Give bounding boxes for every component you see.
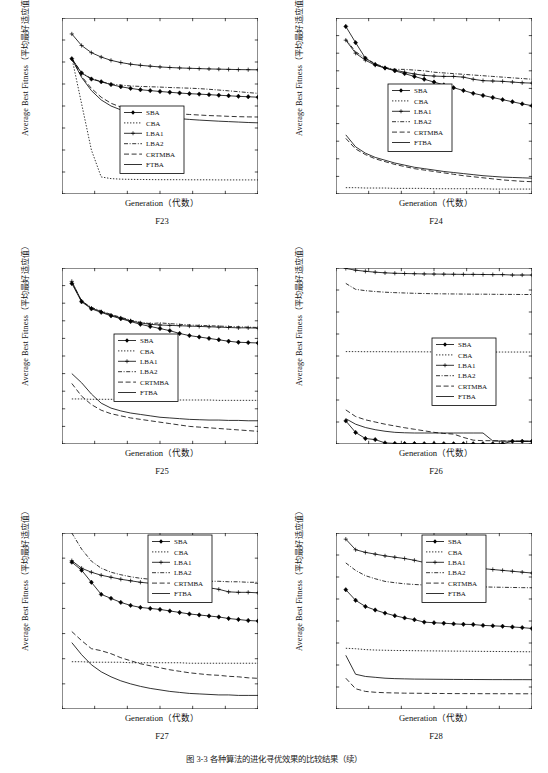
svg-text:CBA: CBA [174, 549, 188, 557]
figure-caption: 图 3-3 各种算法的进化寻优效果的比较结果（续） [0, 752, 548, 764]
plot-area-f25: 0500100015002000250030001420142514301435… [62, 268, 258, 444]
svg-text:LBA1: LBA1 [414, 108, 432, 116]
subplot-caption-f27: F27 [62, 731, 262, 741]
chart-cell-f24: Average Best Fitness（平均最好适应值） 0500100015… [274, 0, 548, 250]
svg-text:LBA2: LBA2 [448, 569, 466, 577]
chart-panel-f27: Average Best Fitness（平均最好适应值） 0500100015… [0, 515, 274, 730]
svg-text:SBA: SBA [414, 87, 428, 95]
chart-cell-f27: Average Best Fitness（平均最好适应值） 0500100015… [0, 515, 274, 755]
svg-text:FTBA: FTBA [146, 161, 164, 169]
chart-cell-f28: Average Best Fitness（平均最好适应值） 0500100015… [274, 515, 548, 755]
figure-page: Average Best Fitness（平均最好适应值） 0500100015… [0, 0, 548, 773]
svg-text:LBA1: LBA1 [448, 559, 466, 567]
y-axis-label-f26: Average Best Fitness（平均最好适应值） [292, 234, 304, 394]
x-axis-label-f27: Generation（代数） [62, 711, 262, 723]
plot-area-f23: 0500100015002000250030005800600062006400… [62, 18, 258, 194]
svg-text:LBA1: LBA1 [140, 358, 158, 366]
svg-text:CBA: CBA [140, 348, 154, 356]
svg-text:FTBA: FTBA [414, 139, 432, 147]
subplot-caption-f28: F28 [336, 731, 536, 741]
chart-panel-f26: Average Best Fitness（平均最好适应值） 0500100015… [274, 250, 548, 465]
svg-text:CBA: CBA [414, 98, 428, 106]
plot-svg-f26: 0500100015002000250030001400142014401460… [336, 268, 532, 444]
plot-area-f24: 0500100015002000250030001290129513001305… [336, 18, 532, 194]
svg-text:SBA: SBA [448, 538, 462, 546]
svg-text:SBA: SBA [146, 109, 160, 117]
chart-panel-f24: Average Best Fitness（平均最好适应值） 0500100015… [274, 0, 548, 215]
plot-svg-f25: 0500100015002000250030001420142514301435… [62, 268, 258, 444]
plot-svg-f28: 0500100015002000250030003000350040004500… [336, 533, 532, 709]
subplot-caption-f26: F26 [336, 466, 536, 476]
svg-text:CRTMBA: CRTMBA [414, 129, 443, 137]
chart-panel-f28: Average Best Fitness（平均最好适应值） 0500100015… [274, 515, 548, 730]
x-axis-label-f23: Generation（代数） [62, 196, 262, 208]
chart-cell-f25: Average Best Fitness（平均最好适应值） 0500100015… [0, 250, 274, 515]
chart-panel-f23: Average Best Fitness（平均最好适应值） 0500100015… [0, 0, 274, 215]
svg-text:CBA: CBA [146, 120, 160, 128]
y-axis-label-f23: Average Best Fitness（平均最好适应值） [18, 0, 30, 144]
svg-text:FTBA: FTBA [174, 590, 192, 598]
x-axis-label-f24: Generation（代数） [336, 196, 536, 208]
svg-text:LBA1: LBA1 [458, 362, 476, 370]
svg-text:LBA2: LBA2 [146, 140, 164, 148]
plot-area-f27: 0500100015002000250030002400245025002550… [62, 533, 258, 709]
plot-svg-f23: 0500100015002000250030005800600062006400… [62, 18, 258, 194]
svg-text:CRTMBA: CRTMBA [140, 379, 169, 387]
y-axis-label-f25: Average Best Fitness（平均最好适应值） [18, 234, 30, 394]
svg-text:CRTMBA: CRTMBA [174, 580, 203, 588]
svg-text:LBA1: LBA1 [174, 559, 192, 567]
plot-svg-f27: 0500100015002000250030002400245025002550… [62, 533, 258, 709]
plot-svg-f24: 0500100015002000250030001290129513001305… [336, 18, 532, 194]
svg-text:SBA: SBA [458, 341, 472, 349]
svg-text:CRTMBA: CRTMBA [146, 151, 175, 159]
x-axis-label-f28: Generation（代数） [336, 711, 536, 723]
chart-cell-f23: Average Best Fitness（平均最好适应值） 0500100015… [0, 0, 274, 250]
chart-cell-f26: Average Best Fitness（平均最好适应值） 0500100015… [274, 250, 548, 515]
x-axis-label-f26: Generation（代数） [336, 446, 536, 458]
plot-area-f26: 0500100015002000250030001400142014401460… [336, 268, 532, 444]
svg-text:FTBA: FTBA [140, 389, 158, 397]
svg-text:LBA2: LBA2 [140, 368, 158, 376]
svg-text:SBA: SBA [174, 538, 188, 546]
y-axis-label-f27: Average Best Fitness（平均最好适应值） [18, 499, 30, 659]
x-axis-label-f25: Generation（代数） [62, 446, 262, 458]
svg-text:CRTMBA: CRTMBA [458, 383, 487, 391]
svg-text:CBA: CBA [458, 352, 472, 360]
svg-text:FTBA: FTBA [458, 393, 476, 401]
svg-text:LBA2: LBA2 [414, 118, 432, 126]
subplot-caption-f23: F23 [62, 216, 262, 226]
chart-grid: Average Best Fitness（平均最好适应值） 0500100015… [0, 0, 548, 755]
svg-text:LBA2: LBA2 [458, 372, 476, 380]
svg-text:CBA: CBA [448, 549, 462, 557]
svg-text:SBA: SBA [140, 337, 154, 345]
y-axis-label-f24: Average Best Fitness（平均最好适应值） [292, 0, 304, 144]
svg-text:FTBA: FTBA [448, 590, 466, 598]
svg-text:LBA1: LBA1 [146, 130, 164, 138]
plot-area-f28: 0500100015002000250030003000350040004500… [336, 533, 532, 709]
svg-text:LBA2: LBA2 [174, 569, 192, 577]
subplot-caption-f24: F24 [336, 216, 536, 226]
y-axis-label-f28: Average Best Fitness（平均最好适应值） [292, 499, 304, 659]
svg-text:CRTMBA: CRTMBA [448, 580, 477, 588]
chart-panel-f25: Average Best Fitness（平均最好适应值） 0500100015… [0, 250, 274, 465]
subplot-caption-f25: F25 [62, 466, 262, 476]
